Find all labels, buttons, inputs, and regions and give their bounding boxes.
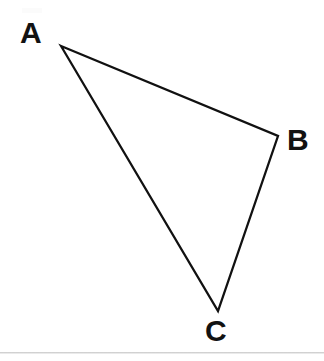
triangle-outline [61,46,278,311]
triangle-figure: A B C [0,0,324,361]
vertex-label-c: C [205,316,227,346]
footer-divider [0,352,324,354]
triangle-svg-canvas [0,0,324,361]
vertex-label-a: A [20,18,42,48]
vertex-label-b: B [287,125,309,155]
